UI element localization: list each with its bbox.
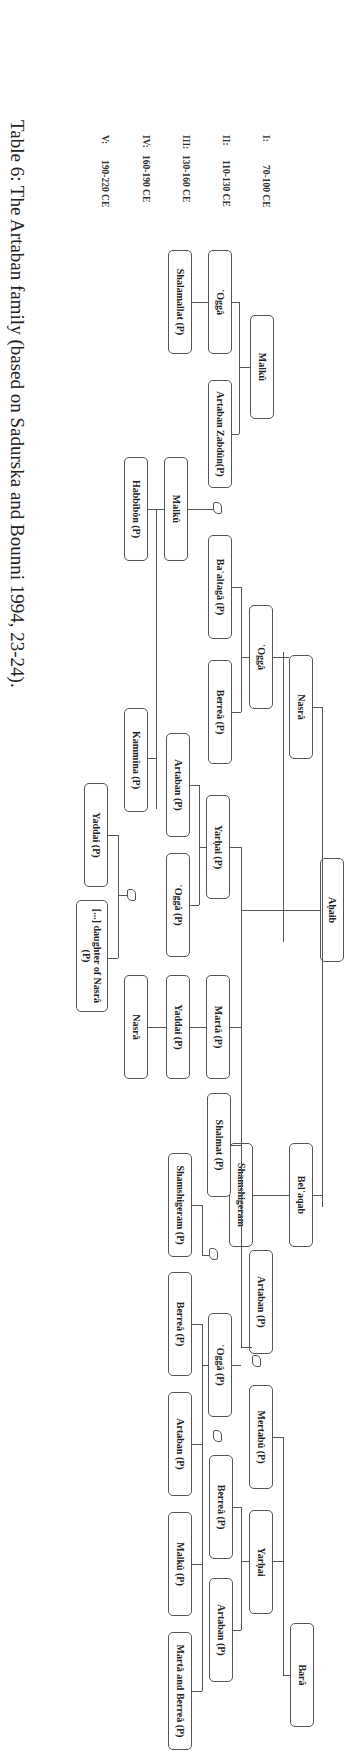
figure-caption: Table 6: The Artaban family (based on Sa…: [6, 120, 30, 920]
connector: [232, 712, 241, 713]
connector: [283, 652, 284, 942]
connector: [283, 1675, 290, 1676]
person-mertabu[interactable]: Mertabû (P): [249, 1385, 273, 1489]
connector: [239, 302, 240, 434]
person-marta[interactable]: Martâ (P): [206, 975, 230, 1079]
person-artaban-gen3b[interactable]: Artaban (P): [209, 1578, 233, 1682]
connector: [108, 958, 118, 959]
person-shalamallat[interactable]: Shalamallat (P): [168, 250, 192, 354]
generation-range-1: 70-100 CE: [258, 165, 272, 285]
person-belaqab[interactable]: Bel῾aqab: [289, 1143, 313, 1247]
connector: [192, 302, 208, 303]
connector: [118, 835, 119, 958]
person-baaltaga[interactable]: Ba῾altagâ (P): [208, 535, 232, 639]
person-berrea-gen3b[interactable]: Berreâ (P): [209, 1455, 233, 1559]
connector: [202, 1205, 203, 1255]
connector: [241, 1347, 252, 1348]
connector: [322, 707, 323, 1207]
connector: [156, 509, 157, 809]
person-artaban-zabdun[interactable]: Artaban Zabdûn(P): [208, 380, 232, 488]
connector: [241, 910, 320, 911]
connector: [202, 1255, 209, 1256]
generation-range-5: 190-220 CE: [97, 160, 111, 280]
connector: [273, 1437, 283, 1438]
person-yarhai-gen2[interactable]: Yarḥai (P): [206, 795, 230, 899]
connector: [232, 1365, 241, 1366]
person-habbibon[interactable]: Habbîbôn (P): [124, 457, 148, 561]
connector: [231, 1145, 241, 1146]
person-yarhai[interactable]: Yarḥai: [249, 1510, 273, 1614]
person-ogga-gen3b[interactable]: ῾Oggâ (P): [208, 1313, 232, 1417]
person-ogga-gen3[interactable]: ῾Oggâ (P): [166, 853, 190, 957]
connector: [148, 1027, 166, 1028]
connector: [241, 587, 242, 712]
connector: [118, 895, 127, 896]
connector: [232, 302, 239, 303]
person-kammina[interactable]: Kammîna (P): [124, 708, 148, 812]
person-malku-gen3[interactable]: Malkû: [164, 457, 188, 561]
connector: [273, 657, 289, 658]
connector: [192, 1324, 202, 1325]
person-yaddai-gen3[interactable]: Yaddai (P): [166, 975, 190, 1079]
connector: [241, 1561, 249, 1562]
connector: [230, 847, 241, 848]
person-ogga-son-of-nasra[interactable]: ῾Oggâ: [249, 605, 273, 709]
connector: [313, 1195, 322, 1196]
marriage-icon: [213, 1430, 222, 1442]
person-artaban-gen4[interactable]: Artaban (P): [168, 1392, 192, 1496]
person-nasra[interactable]: Nasrâ: [289, 655, 313, 759]
connector: [190, 785, 199, 786]
connector: [190, 905, 199, 906]
connector: [199, 785, 200, 905]
connector: [313, 707, 322, 708]
connector: [190, 1027, 206, 1028]
connector: [241, 847, 242, 1347]
marriage-icon: [213, 502, 222, 514]
connector: [283, 1437, 284, 1561]
connector: [230, 1027, 241, 1028]
person-berrea-gen4[interactable]: Berreâ (P): [168, 1272, 192, 1376]
connector: [233, 1630, 241, 1631]
connector: [108, 835, 118, 836]
connector: [253, 1195, 289, 1196]
person-shamshigeram-gen4[interactable]: Shamshigeram (P): [168, 1153, 192, 1257]
person-ahaib[interactable]: Aḥaib: [320, 858, 344, 962]
generation-range-4: 160-190 CE: [138, 155, 152, 275]
connector: [233, 1507, 241, 1508]
person-bara[interactable]: Barâ: [290, 1623, 314, 1727]
marriage-icon: [252, 1355, 261, 1367]
connector: [202, 1324, 203, 1691]
connector: [192, 1444, 202, 1445]
person-artaban-gen3[interactable]: Artaban (P): [166, 733, 190, 837]
person-malku-gen4[interactable]: Malkû (P): [168, 1512, 192, 1616]
connector: [283, 1561, 284, 1675]
person-berrea[interactable]: Berreâ (P): [208, 660, 232, 764]
person-artaban[interactable]: Artaban (P): [249, 1250, 273, 1354]
connector: [273, 1561, 283, 1562]
connector: [148, 758, 156, 759]
connector: [232, 587, 241, 588]
marriage-icon: [209, 1248, 218, 1260]
marriage-icon: [127, 889, 136, 901]
person-marta-and-berrea[interactable]: Martâ and Berreâ (P): [168, 1632, 192, 1750]
connector: [241, 657, 249, 658]
person-shalmat[interactable]: Shalmat (P): [207, 1093, 231, 1197]
connector: [192, 1564, 202, 1565]
connector: [232, 434, 239, 435]
connector: [192, 1205, 202, 1206]
person-yaddai-gen5[interactable]: Yaddai (P): [84, 783, 108, 887]
person-ogga[interactable]: ῾Oggâ: [208, 250, 232, 354]
connector: [188, 509, 213, 510]
connector: [199, 847, 206, 848]
connector: [241, 1507, 242, 1630]
connector: [239, 367, 250, 368]
person-daughter-of-nasra[interactable]: [...] daughter of Nasrâ (P): [76, 900, 108, 1012]
connector: [192, 1691, 202, 1692]
person-nasra-gen4[interactable]: Nasrâ: [124, 975, 148, 1079]
connector: [202, 1365, 208, 1366]
person-malku[interactable]: Malkû: [250, 315, 274, 419]
